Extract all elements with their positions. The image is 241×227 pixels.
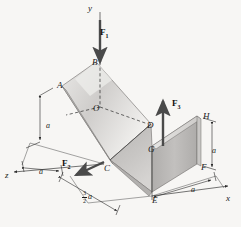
- fraction-variable: a: [88, 193, 92, 201]
- force-label-F1: F1: [100, 28, 109, 39]
- point-label-F: F: [201, 163, 207, 172]
- dimension-label-a-right: a: [212, 147, 216, 155]
- point-label-C: C: [104, 164, 110, 173]
- dimension-label-a-z: a: [39, 168, 43, 176]
- point-label-G: G: [148, 145, 155, 154]
- figure-canvas: y x z A B O C D E F G H F1 F2 F3 a a a a…: [0, 0, 241, 227]
- fraction-denominator: 2: [82, 198, 87, 204]
- axis-label-z: z: [5, 171, 9, 180]
- point-label-B: B: [92, 58, 98, 67]
- point-label-A: A: [57, 81, 63, 90]
- fraction-numerator: 3: [82, 190, 87, 196]
- vertical-plate-surface: [152, 116, 201, 192]
- dimension-label-a-left: a: [46, 122, 50, 130]
- point-label-O: O: [93, 104, 100, 113]
- fraction-stack: 3 2: [82, 190, 87, 205]
- point-label-E: E: [152, 196, 158, 205]
- force-label-F3-subscript: 3: [178, 104, 181, 110]
- force-label-F2: F2: [62, 159, 71, 170]
- force-F2-arrow: [76, 162, 104, 175]
- point-label-D: D: [147, 121, 154, 130]
- point-label-H: H: [203, 112, 210, 121]
- force-label-F2-subscript: 2: [68, 164, 71, 170]
- dimension-label-a-x: a: [191, 186, 195, 194]
- axis-label-x: x: [226, 194, 230, 203]
- force-label-F1-subscript: 1: [106, 33, 109, 39]
- dimension-a-left: [26, 88, 53, 148]
- force-label-F3: F3: [172, 99, 181, 110]
- dimension-label-three-halves-a: 3 2 a: [82, 190, 92, 205]
- axis-label-y: y: [88, 4, 92, 13]
